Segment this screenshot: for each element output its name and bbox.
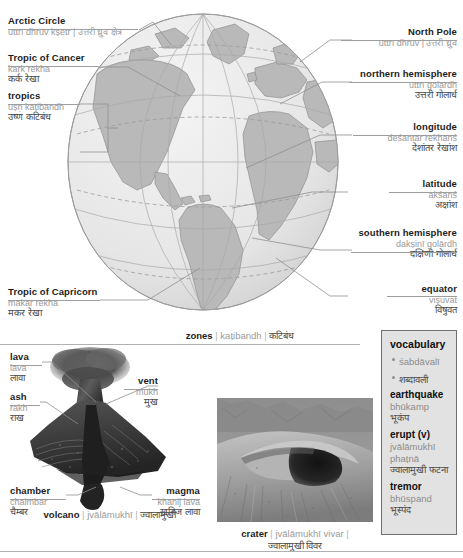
label-southern-hemisphere: southern hemisphere dakṣiṇī golārdh दक्ष… [358, 228, 457, 259]
label-lava-en: lava [10, 352, 29, 363]
vocabulary-dev-erupt: ज्वालामुखी फटना [390, 464, 449, 475]
caption-zones-dev: कटिबंध [269, 330, 294, 341]
label-arctic-circle-en: Arctic Circle [8, 16, 122, 27]
caption-zones-en: zones [186, 330, 213, 341]
rule-tropic-of-capricorn [8, 300, 100, 301]
label-northern-hemisphere-en: northern hemisphere [360, 69, 457, 80]
label-latitude: latitude akśānś अक्षांश [422, 179, 457, 210]
rule-latitude [389, 192, 457, 193]
vocabulary-term-tremor: tremor [390, 481, 449, 493]
vocabulary-title-dev-row: शब्दावली [390, 369, 449, 387]
vocabulary-title-dev: शब्दावली [399, 374, 428, 385]
caption-volcano-en: volcano [44, 509, 80, 520]
caption-volcano: volcano | jvālāmukhī | ज्वालामुखी [20, 508, 200, 521]
globe-svg [63, 12, 343, 317]
label-longitude: longitude deśāntar rekhānś देशांतर रेखां… [387, 122, 457, 153]
caption-volcano-rom: jvālāmukhī [87, 509, 132, 520]
rule-equator [387, 296, 457, 297]
rule-vent [124, 389, 158, 390]
label-latitude-en: latitude [422, 179, 457, 190]
label-longitude-en: longitude [387, 122, 457, 133]
label-latitude-dev: अक्षांश [422, 200, 457, 211]
rule-northern-hemisphere [349, 82, 457, 83]
vocabulary-rom-earthquake: bhūkamp [390, 401, 449, 412]
label-ash-dev: राख [10, 413, 28, 424]
caption-crater-en: crater [241, 528, 267, 539]
label-tropic-of-cancer-en: Tropic of Cancer [8, 53, 85, 64]
crater-photo [217, 398, 373, 522]
label-tropics: tropics uṣṇ kaṭibandh उष्ण कटिबंध [8, 91, 64, 122]
rule-tropics [8, 104, 80, 105]
rule-north-pole [341, 40, 457, 41]
label-north-pole-en: North Pole [379, 27, 457, 38]
rule-tropic-of-cancer [8, 66, 98, 67]
vocabulary-box: vocabulary śabdāvalī शब्दावली earthquake… [381, 330, 457, 535]
label-tropic-of-capricorn-dev: मकर रेखा [8, 308, 98, 319]
caption-zones: zones | kaṭibandh | कटिबंध [140, 329, 340, 342]
rule-ash [10, 405, 40, 406]
label-ash: ash rākh राख [10, 392, 28, 423]
vocabulary-rom-erupt-2: phaṭnā [390, 453, 449, 464]
bullet-icon [392, 376, 395, 379]
section-divider-bottom [0, 551, 463, 552]
label-tropics-dev: उष्ण कटिबंध [8, 112, 64, 123]
label-magma-en: magma [96, 486, 200, 497]
label-lava: lava lāvā लावा [10, 352, 29, 383]
rule-chamber [10, 499, 66, 500]
caption-zones-rom: kaṭibandh [220, 330, 261, 341]
rule-arctic-circle [8, 29, 138, 30]
vocabulary-rom-tremor: bhūspand [390, 493, 449, 504]
rule-lava [10, 365, 42, 366]
rule-magma [152, 499, 200, 500]
label-equator-en: equator [421, 284, 457, 295]
crater-photo-svg [217, 398, 373, 522]
label-tropic-of-cancer-dev: कर्क रेखा [8, 74, 85, 85]
label-arctic-circle: Arctic Circle uttrī dhruv kṣetr | उत्तरी… [8, 16, 122, 37]
label-lava-dev: लावा [10, 373, 29, 384]
label-vent: vent mukh मुख [108, 376, 158, 407]
label-tropic-of-cancer: Tropic of Cancer kark rekhā कर्क रेखा [8, 53, 85, 84]
label-equator-dev: विषुवत [421, 305, 457, 316]
label-tropic-of-capricorn-en: Tropic of Capricorn [8, 287, 98, 298]
globe-illustration [63, 12, 343, 317]
vocabulary-title: vocabulary [390, 338, 449, 350]
label-northern-hemisphere: northern hemisphere uttrī golārdh उत्तरी… [360, 69, 457, 100]
vocabulary-dev-tremor: भूस्पंद [390, 504, 449, 515]
bullet-icon [392, 358, 395, 361]
label-tropic-of-capricorn: Tropic of Capricorn makar rekhā मकर रेखा [8, 287, 98, 318]
label-southern-hemisphere-en: southern hemisphere [358, 228, 457, 239]
rule-southern-hemisphere [351, 252, 457, 253]
vocabulary-title-rom-row: śabdāvalī [390, 351, 449, 369]
label-tropics-en: tropics [8, 91, 64, 102]
label-chamber-en: chamber [10, 486, 50, 497]
label-northern-hemisphere-dev: उत्तरी गोलार्ध [360, 90, 457, 101]
caption-crater: crater | jvālāmukhī vivar | ज्वालामुखी व… [205, 528, 385, 553]
vocabulary-term-erupt: erupt (v) [390, 429, 449, 441]
rule-longitude [353, 135, 457, 136]
label-ash-en: ash [10, 392, 28, 403]
worksheet-page: Arctic Circle uttrī dhruv kṣetr | उत्तरी… [0, 0, 463, 558]
label-longitude-dev: देशांतर रेखांश [387, 143, 457, 154]
label-equator: equator viṣuvat विषुवत [421, 284, 457, 315]
caption-crater-rom: jvālāmukhī vivar [275, 528, 343, 539]
vocabulary-dev-earthquake: भूकंप [390, 412, 449, 423]
vocabulary-rom-erupt-1: jvālāmukhī [390, 441, 449, 452]
vocabulary-title-rom: śabdāvalī [399, 356, 440, 367]
label-vent-en: vent [108, 376, 158, 387]
caption-crater-dev: ज्वालामुखी विवर [268, 540, 323, 551]
label-vent-dev: मुख [108, 397, 158, 408]
caption-volcano-dev: ज्वालामुखी [140, 509, 176, 520]
label-north-pole: North Pole uttrī dhruv | उत्तरी ध्रुव [379, 27, 457, 48]
label-southern-hemisphere-dev: दक्षिणी गोलार्ध [358, 249, 457, 260]
vocabulary-term-earthquake: earthquake [390, 389, 449, 401]
